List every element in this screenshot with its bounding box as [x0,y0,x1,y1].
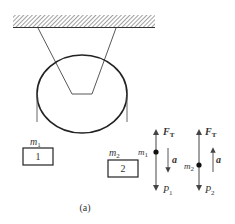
svg-text:m2: m2 [109,147,120,160]
pulley-support [38,28,116,94]
ceiling [13,15,155,28]
free-body-diagram-2: m2 FT P2 a [184,126,221,197]
block-2: m2 2 [108,147,138,177]
svg-text:2: 2 [121,163,126,174]
svg-text:m1: m1 [138,147,149,159]
svg-text:P2: P2 [204,184,215,197]
svg-text:P1: P1 [162,184,173,197]
svg-text:1: 1 [36,151,41,162]
figure-caption: (a) [79,202,90,214]
svg-text:a: a [172,154,177,165]
svg-text:FT: FT [162,126,175,139]
pulley-diagram: m1 1 m2 2 m1 FT P1 a m2 FT P2 a (a) [0,0,235,224]
svg-text:m1: m1 [30,136,41,149]
rope [37,96,127,122]
svg-text:FT: FT [204,126,217,139]
svg-text:m2: m2 [184,161,195,173]
svg-text:a: a [216,154,221,165]
free-body-diagram-1: m1 FT P1 a [138,126,177,197]
block-1: m1 1 [23,136,53,165]
